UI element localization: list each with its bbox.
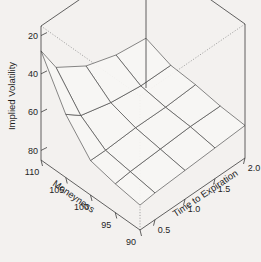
z-tick-label: 40	[28, 69, 38, 79]
x-tick-mark	[140, 230, 142, 236]
z-tick-label: 20	[28, 31, 38, 41]
z-tick-mark	[41, 109, 47, 112]
z-tick-mark	[41, 33, 47, 36]
z-tick-mark	[41, 71, 47, 74]
implied-volatility-surface-plot: 80604020Implied Volatility1101051009590M…	[0, 0, 261, 262]
z-tick-label: 80	[28, 146, 38, 156]
x-tick-label: 90	[126, 237, 136, 247]
z-axis-title: Implied Volatility	[6, 62, 17, 130]
z-tick-mark	[41, 147, 47, 150]
top-front-left-edge	[41, 0, 146, 26]
y-tick-label: 0.5	[158, 225, 171, 235]
x-tick-label: 95	[101, 220, 111, 230]
surface-plot-canvas: 80604020Implied Volatility1101051009590M…	[0, 0, 261, 262]
z-tick-label: 60	[28, 107, 38, 117]
y-tick-label: 2.0	[248, 163, 261, 173]
x-tick-label: 110	[25, 167, 39, 177]
top-front-right-edge	[146, 0, 245, 24]
